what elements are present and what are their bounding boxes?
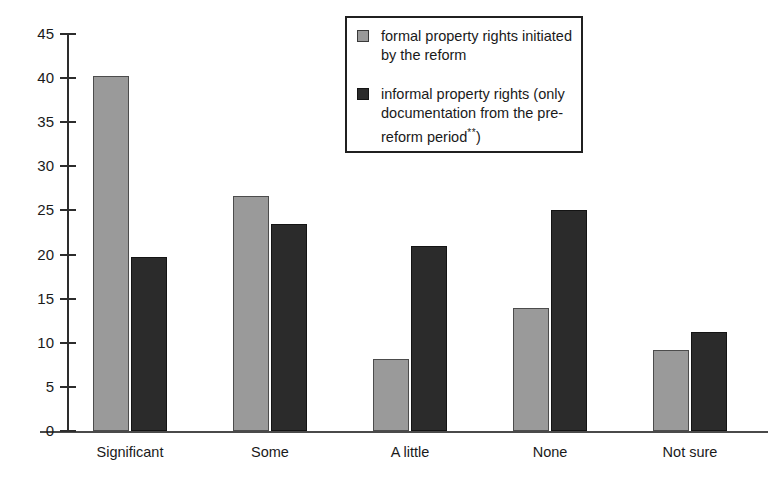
legend-label-formal-line1: formal property rights initiated xyxy=(381,27,573,46)
y-axis-tick-label: 40 xyxy=(26,70,54,85)
legend-entry-informal: informal property rights (only documenta… xyxy=(356,85,573,147)
y-axis-tick-label: 10 xyxy=(26,335,54,350)
y-axis-tick-label: 20 xyxy=(26,247,54,262)
y-axis-tick-label: 45 xyxy=(26,26,54,41)
legend-label-informal-line3-text: reform period xyxy=(381,129,467,145)
x-axis-category-label: Significant xyxy=(70,444,190,461)
x-axis-category-label: Not sure xyxy=(630,444,750,461)
x-axis-category-label: None xyxy=(490,444,610,461)
bar xyxy=(233,196,269,431)
y-axis-tick-label: 30 xyxy=(26,158,54,173)
legend-label-formal-line2: by the reform xyxy=(381,46,573,65)
legend: formal property rights initiated by the … xyxy=(345,16,583,153)
bar xyxy=(131,257,167,431)
y-axis-tick-label: 25 xyxy=(26,202,54,217)
legend-label-informal-tail: ) xyxy=(476,129,481,145)
x-axis-category-label: Some xyxy=(210,444,330,461)
y-axis-tick-label: 35 xyxy=(26,114,54,129)
y-axis-tick-label: 5 xyxy=(26,379,54,394)
footnote-marker: ** xyxy=(467,127,476,138)
legend-swatch-formal-icon xyxy=(357,30,369,42)
bar xyxy=(551,210,587,431)
bar xyxy=(93,76,129,431)
legend-entry-formal: formal property rights initiated by the … xyxy=(356,27,573,65)
bar xyxy=(691,332,727,431)
bar-chart: 051015202530354045 SignificantSomeA litt… xyxy=(0,0,780,486)
bar xyxy=(653,350,689,431)
y-axis-tick-label: 0 xyxy=(26,423,54,438)
y-axis-tick-label: 15 xyxy=(26,291,54,306)
bar xyxy=(373,359,409,431)
x-axis-line xyxy=(40,431,768,433)
legend-label-informal-line1: informal property rights (only xyxy=(381,85,573,104)
bar xyxy=(271,224,307,431)
legend-label-informal-line3: reform period**) xyxy=(381,123,573,147)
bar xyxy=(513,308,549,432)
bar xyxy=(411,246,447,431)
x-axis-category-label: A little xyxy=(350,444,470,461)
legend-swatch-informal-icon xyxy=(357,88,369,100)
legend-label-informal-line2: documentation from the pre- xyxy=(381,104,573,123)
